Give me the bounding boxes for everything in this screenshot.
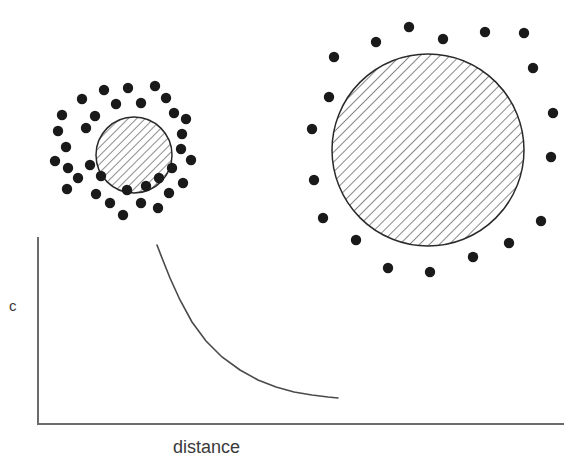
particle-dot [186, 155, 196, 165]
particle-dot [371, 37, 381, 47]
particle-dot [99, 85, 109, 95]
particle-dot [177, 129, 187, 139]
scientific-figure: c distance [0, 0, 583, 469]
particle-dot [85, 160, 95, 170]
particle-dot [309, 175, 319, 185]
figure-canvas [0, 0, 583, 469]
small-particle-cluster [50, 81, 196, 220]
particle-dot [383, 263, 393, 273]
particle-dot [468, 252, 478, 262]
particle-dot [318, 213, 328, 223]
particle-dot [164, 188, 174, 198]
particle-dot [50, 156, 60, 166]
particle-dot [154, 173, 164, 183]
particle-dot [528, 63, 538, 73]
particle-dot [153, 203, 163, 213]
particle-dot [178, 178, 188, 188]
particle-dot [53, 126, 63, 136]
particle-dot [141, 181, 151, 191]
particle-dot [546, 152, 556, 162]
particle-dot [150, 81, 160, 91]
particle-dot [62, 184, 72, 194]
large-particle-cluster [307, 22, 558, 277]
particle-dot [536, 216, 546, 226]
particle-dot [161, 93, 171, 103]
particle-dot [118, 210, 128, 220]
particle-dot [438, 34, 448, 44]
particle-dot [307, 124, 317, 134]
particle-dot [111, 99, 121, 109]
particle-dot [548, 108, 558, 118]
particle-dot [136, 98, 146, 108]
particle-dot [425, 267, 435, 277]
particle-dot [324, 92, 334, 102]
particle-dot [57, 110, 67, 120]
particle-dot [61, 142, 71, 152]
particle-dot [404, 22, 414, 32]
particle-dot [176, 144, 186, 154]
particle-dot [96, 171, 106, 181]
axis-lines [38, 238, 563, 424]
plot-axes [38, 238, 563, 424]
particle-dot [105, 198, 115, 208]
particle-dot [136, 198, 146, 208]
particle-dot [90, 111, 100, 121]
particle-dot [504, 238, 514, 248]
particle-dot [519, 28, 529, 38]
particle-dot [181, 114, 191, 124]
particle-dot [123, 83, 133, 93]
particle-dot [63, 163, 73, 173]
particle-dot [169, 108, 179, 118]
y-axis-label: c [9, 297, 17, 314]
particle-dot [480, 27, 490, 37]
large-hatched-circle [332, 54, 524, 246]
particle-dot [77, 94, 87, 104]
particle-dot [91, 189, 101, 199]
particle-dot [122, 185, 132, 195]
particle-dot [81, 123, 91, 133]
concentration-decay-curve [157, 245, 338, 398]
particle-dot [351, 235, 361, 245]
particle-dot [73, 173, 83, 183]
x-axis-label: distance [173, 437, 240, 458]
particle-dot [167, 163, 177, 173]
particle-dot [329, 52, 339, 62]
